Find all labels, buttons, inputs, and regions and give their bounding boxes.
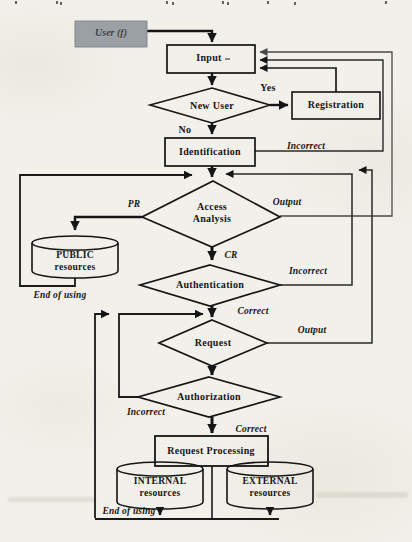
pr-label: PR [128,199,141,210]
bottom-end-of-using-label: End of using [102,506,155,517]
no-label: No [178,124,191,136]
public-resources-label-line1: PUBLIC [56,250,94,261]
authentication-label: Authentication [176,279,244,291]
authorization-incorrect-label: Incorrect [127,407,165,418]
registration-label: Registration [308,99,364,111]
authentication-incorrect-label: Incorrect [289,266,327,277]
user-box-label: User (f) [95,27,127,39]
cr-label: CR [224,250,237,261]
internal-resources-label-line2: resources [140,488,181,499]
yes-label: Yes [260,82,276,94]
edge-public-resources-return-loop [20,175,192,286]
identification-label: Identification [179,146,241,158]
access-output-label: Output [273,197,302,208]
identification-incorrect-label: Incorrect [287,141,325,152]
authorization-label: Authorization [177,391,241,403]
input-trailing-mark [225,58,230,60]
flowchart-page: User (f) Input New User Registration Ide… [0,0,412,542]
input-label: Input [196,52,221,64]
request-processing-label: Request Processing [167,445,255,457]
edge-user-to-input [147,31,212,42]
internal-resources-label-line1: INTERNAL [134,476,187,487]
edge-pr-to-public-resources [75,217,142,230]
external-resources-label-line1: EXTERNAL [242,476,297,487]
public-end-of-using-label: End of using [33,290,86,301]
authentication-correct-label: Correct [238,306,269,317]
request-label: Request [195,337,232,349]
public-resources-label-line2: resources [55,262,96,273]
edge-bottom-return-loop [95,314,109,518]
edge-authorization-incorrect-loop [119,314,203,397]
access-analysis-label-line1: Access [197,201,227,213]
authorization-correct-label: Correct [236,424,267,435]
request-output-label: Output [298,325,327,336]
access-analysis-label-line2: Analysis [193,213,232,225]
external-resources-label-line2: resources [250,488,291,499]
new-user-label: New User [190,100,234,112]
